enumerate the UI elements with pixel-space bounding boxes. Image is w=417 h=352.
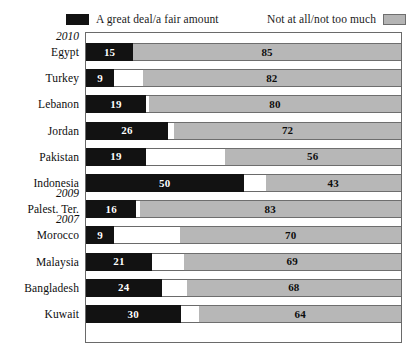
bar-segment-not-at-all: 83 (140, 200, 401, 218)
stacked-bar: 2468 (86, 279, 401, 297)
bar-segment-gap (181, 305, 200, 323)
bar-value-great-deal: 50 (159, 178, 170, 189)
row-label-pakistan: Pakistan (0, 148, 79, 166)
bar-segment-great-deal: 19 (86, 95, 146, 113)
stacked-bar: 2672 (86, 122, 401, 140)
chart-row: 2010Egypt1585 (0, 43, 417, 61)
bar-value-not-at-all: 80 (269, 99, 280, 110)
chart-row: Malaysia2169 (0, 253, 417, 271)
bar-segment-great-deal: 50 (86, 174, 244, 192)
bar-segment-gap (114, 69, 142, 87)
year-group-label: 2007 (0, 213, 79, 226)
year-group-label: 2009 (0, 187, 79, 200)
bar-value-not-at-all: 68 (288, 282, 299, 293)
bar-value-not-at-all: 69 (287, 256, 298, 267)
chart-row: Jordan2672 (0, 122, 417, 140)
bar-segment-not-at-all: 70 (180, 226, 401, 244)
row-label-kuwait: Kuwait (0, 305, 79, 323)
row-label-morocco: Morocco (0, 226, 79, 244)
stacked-bar: 982 (86, 69, 401, 87)
bar-value-not-at-all: 72 (282, 125, 293, 136)
row-label-bangladesh: Bangladesh (0, 279, 79, 297)
bar-segment-great-deal: 26 (86, 122, 168, 140)
row-label-malaysia: Malaysia (0, 253, 79, 271)
chart-rows: 2010Egypt1585Turkey982Lebanon1980Jordan2… (0, 32, 417, 343)
chart-row: Turkey982 (0, 69, 417, 87)
bar-value-great-deal: 26 (121, 125, 132, 136)
year-group-label: 2010 (0, 30, 79, 43)
bar-segment-not-at-all: 56 (225, 148, 401, 166)
bar-value-not-at-all: 43 (328, 178, 339, 189)
bar-segment-great-deal: 24 (86, 279, 162, 297)
bar-segment-gap (146, 148, 225, 166)
bar-value-not-at-all: 82 (266, 73, 277, 84)
bar-segment-gap (244, 174, 266, 192)
row-label-jordan: Jordan (0, 122, 79, 140)
chart-row: Lebanon1980 (0, 95, 417, 113)
bar-value-not-at-all: 70 (285, 230, 296, 241)
bar-segment-not-at-all: 82 (143, 69, 401, 87)
bar-segment-not-at-all: 85 (133, 43, 401, 61)
bar-value-not-at-all: 83 (265, 204, 276, 215)
bar-segment-not-at-all: 43 (266, 174, 401, 192)
chart-row: 2007Morocco970 (0, 226, 417, 244)
bar-value-not-at-all: 56 (307, 151, 318, 162)
bar-segment-not-at-all: 69 (184, 253, 401, 271)
bar-segment-great-deal: 9 (86, 226, 114, 244)
stacked-bar: 970 (86, 226, 401, 244)
bar-segment-great-deal: 19 (86, 148, 146, 166)
bar-segment-gap (114, 226, 180, 244)
bar-segment-great-deal: 15 (86, 43, 133, 61)
bar-segment-great-deal: 9 (86, 69, 114, 87)
chart-legend: A great deal/a fair amount Not at all/no… (0, 11, 417, 27)
bar-value-great-deal: 16 (105, 204, 116, 215)
stacked-bar: 1956 (86, 148, 401, 166)
bar-segment-great-deal: 16 (86, 200, 136, 218)
bar-value-great-deal: 15 (104, 47, 115, 58)
stacked-bar: 3064 (86, 305, 401, 323)
legend-entry-great-deal: A great deal/a fair amount (66, 11, 219, 27)
row-label-lebanon: Lebanon (0, 95, 79, 113)
bar-segment-gap (152, 253, 184, 271)
bar-value-not-at-all: 85 (261, 47, 272, 58)
chart-row: Bangladesh2468 (0, 279, 417, 297)
bar-segment-not-at-all: 80 (149, 95, 401, 113)
bar-segment-not-at-all: 64 (199, 305, 401, 323)
bar-value-great-deal: 9 (97, 73, 103, 84)
bar-segment-gap (162, 279, 187, 297)
stacked-bar: 1585 (86, 43, 401, 61)
row-label-turkey: Turkey (0, 69, 79, 87)
bar-value-great-deal: 24 (118, 282, 129, 293)
legend-entry-not-at-all: Not at all/not too much (267, 11, 406, 27)
legend-label-not-at-all: Not at all/not too much (267, 13, 376, 25)
stacked-bar: 2169 (86, 253, 401, 271)
chart-row: Pakistan1956 (0, 148, 417, 166)
chart-row: Kuwait3064 (0, 305, 417, 323)
bar-value-great-deal: 19 (110, 151, 121, 162)
bar-value-not-at-all: 64 (294, 309, 305, 320)
bar-value-great-deal: 9 (97, 230, 103, 241)
bar-segment-great-deal: 30 (86, 305, 181, 323)
bar-value-great-deal: 21 (113, 256, 124, 267)
bar-value-great-deal: 30 (128, 309, 139, 320)
bar-segment-not-at-all: 68 (187, 279, 401, 297)
bar-segment-great-deal: 21 (86, 253, 152, 271)
stacked-bar: 1683 (86, 200, 401, 218)
stacked-bar-chart: A great deal/a fair amount Not at all/no… (0, 0, 417, 352)
gray-swatch-icon (383, 14, 406, 25)
legend-label-great-deal: A great deal/a fair amount (96, 13, 219, 25)
bar-value-great-deal: 19 (110, 99, 121, 110)
bar-segment-not-at-all: 72 (174, 122, 401, 140)
row-label-egypt: Egypt (0, 43, 79, 61)
black-swatch-icon (66, 14, 89, 25)
stacked-bar: 1980 (86, 95, 401, 113)
stacked-bar: 5043 (86, 174, 401, 192)
